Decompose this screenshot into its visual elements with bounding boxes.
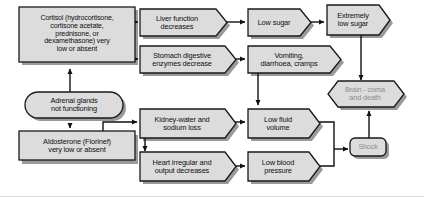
node-kidney-loss-hit[interactable] [140, 109, 236, 138]
node-cortisol-hit[interactable] [19, 7, 135, 62]
node-adrenal-glands-hit[interactable] [25, 92, 123, 118]
node-low-sugar-hit[interactable] [248, 9, 311, 36]
node-aldosterone-hit[interactable] [19, 131, 135, 160]
node-vomiting-hit[interactable] [248, 46, 341, 73]
node-brain-coma-hit[interactable] [328, 81, 404, 107]
node-extremely-low-sugar-hit[interactable] [327, 5, 390, 35]
node-low-fluid-volume-hit[interactable] [248, 109, 320, 138]
flowchart-diagram: Cortisol (hydrocortisone, cortisone acet… [0, 0, 424, 197]
node-shock-hit[interactable] [350, 138, 386, 156]
node-liver-function-hit[interactable] [140, 9, 227, 36]
node-heart-irregular-hit[interactable] [140, 152, 236, 181]
node-stomach-enzymes-hit[interactable] [140, 46, 236, 73]
node-low-blood-pressure-hit[interactable] [248, 152, 320, 181]
bottom-divider [0, 196, 424, 197]
